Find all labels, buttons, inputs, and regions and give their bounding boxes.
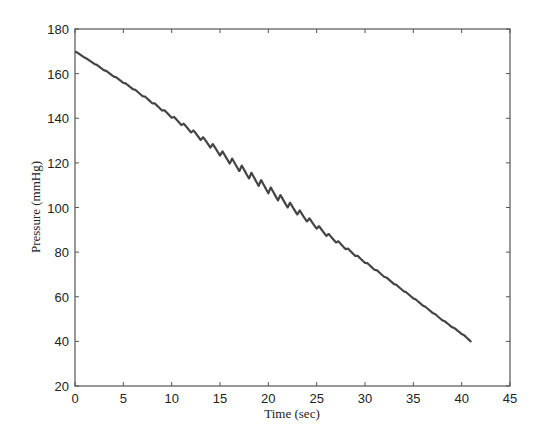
y-tick-label: 60: [55, 290, 69, 305]
y-tick-label: 140: [47, 111, 69, 126]
x-tick-label: 25: [309, 391, 323, 406]
y-tick-label: 80: [55, 245, 69, 260]
pressure-chart: 051015202530354045 204060801001201401601…: [0, 0, 543, 444]
y-tick-label: 120: [47, 156, 69, 171]
x-tick-label: 30: [358, 391, 372, 406]
x-axis-label: Time (sec): [264, 406, 320, 421]
x-tick-label: 45: [503, 391, 517, 406]
y-tick-label: 100: [47, 201, 69, 216]
x-tick-label: 10: [164, 391, 178, 406]
x-tick-label: 15: [213, 391, 227, 406]
y-tick-label: 40: [55, 334, 69, 349]
y-axis-label: Pressure (mmHg): [28, 161, 43, 253]
y-tick-label: 160: [47, 67, 69, 82]
x-tick-label: 5: [120, 391, 127, 406]
x-tick-label: 35: [406, 391, 420, 406]
x-tick-label: 20: [261, 391, 275, 406]
y-tick-label: 20: [55, 379, 69, 394]
x-tick-label: 40: [454, 391, 468, 406]
x-tick-label: 0: [71, 391, 78, 406]
y-tick-label: 180: [47, 22, 69, 37]
